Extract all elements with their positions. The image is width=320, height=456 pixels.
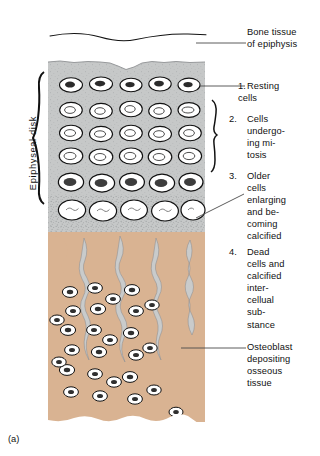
label-mitosis-number: 2. (238, 113, 247, 125)
label-older-cells-number: 3. (238, 170, 247, 182)
label-resting-number: 1. (238, 80, 247, 92)
label-dead-cells-text: Dead cells and calcified inter- cellual … (247, 247, 285, 330)
label-dead-cells-number: 4. (238, 246, 247, 258)
figure-endochondral-ossification: Bone tissue of epiphysis 1.Resting cells… (0, 0, 320, 456)
label-mitosis-text: Cells undergo- ing mi- tosis (247, 114, 285, 160)
label-older-cells: 3.Older cells enlarging and be- coming c… (238, 170, 320, 243)
label-bone-tissue: Bone tissue of epiphysis (247, 26, 297, 50)
label-mitosis: 2.Cells undergo- ing mi- tosis (238, 113, 320, 161)
label-epiphyseal-disk: Epiphyseal disk (28, 98, 38, 208)
label-dead-cells: 4.Dead cells and calcified inter- cellua… (238, 246, 320, 331)
bone-tissue-boundary-line (50, 33, 206, 40)
label-osteoblast: Osteoblast depositing osseous tissue (247, 341, 292, 389)
zone-2-3-brace (211, 100, 217, 172)
ossification-zone (48, 232, 205, 428)
figure-caption: (a) (8, 434, 19, 444)
label-older-cells-text: Older cells enlarging and be- coming cal… (247, 171, 286, 241)
cartilage-zone (44, 55, 210, 236)
